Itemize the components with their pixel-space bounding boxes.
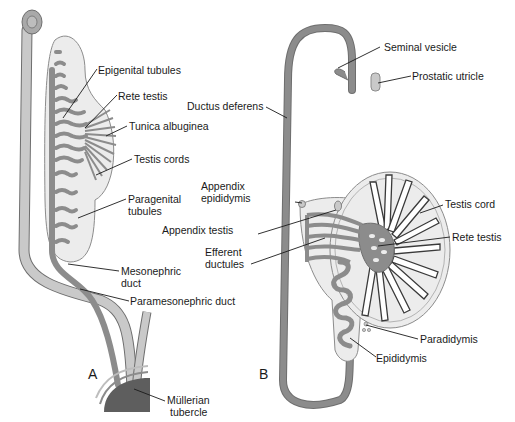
label-epididymis: Epididymis [376,352,427,364]
prostatic-utricle-shape [371,73,380,91]
label-mesonephric-line1: Mesonephric [121,265,181,277]
label-paragenital-line1: Paragenital [128,193,181,205]
panel-letter-b: B [259,366,268,382]
label-testis-cord: Testis cord [445,198,495,210]
label-mesonephric-line2: duct [121,277,141,289]
label-mullerian-line2: tubercle [170,406,207,418]
label-tunica-albuginea: Tunica albuginea [129,120,209,132]
male-genital-duct-diagram [0,0,515,422]
label-testis-cords: Testis cords [134,153,189,165]
label-paradidymis: Paradidymis [420,333,478,345]
label-prostatic-utricle: Prostatic utricle [412,70,484,82]
label-ductus-deferens: Ductus deferens [187,100,263,112]
label-appendix-epididymis-line1: Appendix [201,180,245,192]
label-appendix-epididymis-line2: epididymis [201,192,251,204]
label-paragenital-line2: tubules [128,205,162,217]
label-seminal-vesicle: Seminal vesicle [384,41,457,53]
label-rete-testis-b: Rete testis [452,231,502,243]
panel-b-drawing [283,28,450,405]
label-epigenital-tubules: Epigenital tubules [98,64,181,76]
appendix-testis-shape [335,201,342,211]
label-efferent-line2: ductules [205,258,244,270]
label-efferent-line1: Efferent [205,246,242,258]
label-paramesonephric-duct: Paramesonephric duct [130,295,235,307]
appendix-epididymis-shape [299,201,306,208]
seminal-vesicle-shape [335,69,348,80]
mullerian-tubercle-shape [96,366,150,412]
label-rete-testis-a: Rete testis [118,90,168,102]
label-appendix-testis: Appendix testis [162,224,233,236]
panel-letter-a: A [88,366,97,382]
label-mullerian-line1: Müllerian [167,394,210,406]
